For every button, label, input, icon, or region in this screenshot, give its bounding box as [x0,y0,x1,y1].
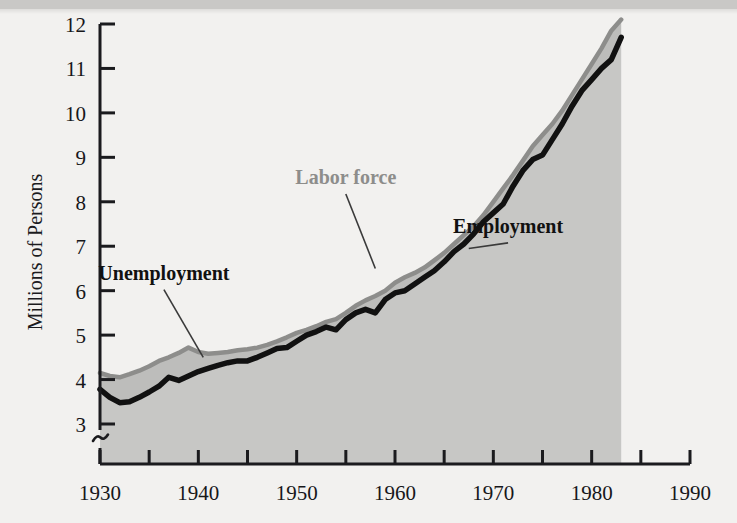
annotation-labor-force: Labor force [295,166,396,188]
y-tick-label: 8 [76,191,87,215]
x-tick-label: 1940 [177,481,219,505]
leader-line [346,194,376,268]
y-tick-label: 12 [65,13,86,37]
y-tick-label: 10 [65,102,86,126]
x-tick-label: 1970 [472,481,514,505]
y-tick-label: 7 [76,235,87,259]
x-tick-label: 1990 [669,481,711,505]
chart-figure: 3456789101112193019401950196019701980199… [0,0,737,523]
annotation-employment: Employment [453,215,563,238]
y-tick-label: 11 [66,57,86,81]
y-tick-label: 5 [76,324,87,348]
labor-force-area [100,37,621,464]
x-tick-label: 1930 [79,481,121,505]
y-axis-title: Millions of Persons [24,173,46,330]
x-tick-label: 1960 [374,481,416,505]
y-tick-label: 6 [76,280,87,304]
x-tick-label: 1950 [276,481,318,505]
chart-canvas: 3456789101112193019401950196019701980199… [0,0,737,523]
annotation-unemployment: Unemployment [98,262,229,285]
leader-line [164,290,203,358]
x-tick-label: 1980 [571,481,613,505]
y-tick-label: 9 [76,146,87,170]
y-tick-label: 3 [76,413,87,437]
y-tick-label: 4 [76,369,87,393]
